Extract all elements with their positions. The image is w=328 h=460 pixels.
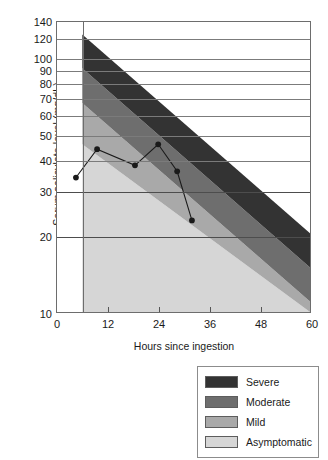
- legend-item: Mild: [205, 413, 311, 430]
- data-point-2: [132, 162, 138, 168]
- y-tick-label-120: 120: [34, 33, 52, 45]
- legend-item: Moderate: [205, 393, 311, 410]
- y-tick-label-20: 20: [40, 231, 52, 243]
- x-tick-label-60: 60: [306, 318, 318, 330]
- data-point-1: [94, 146, 100, 152]
- x-tick-mark-12: [108, 307, 109, 312]
- legend: Severe Moderate Mild Asymptomatic: [197, 366, 319, 458]
- y-tick-label-90: 90: [40, 65, 52, 77]
- gridline-y-50: [57, 136, 310, 137]
- x-tick-label-48: 48: [255, 318, 267, 330]
- y-tick-label-100: 100: [34, 53, 52, 65]
- y-tick-label-140: 140: [34, 16, 52, 28]
- data-point-0: [73, 175, 79, 181]
- series-line: [76, 144, 192, 220]
- x-tick-mark-36: [210, 307, 211, 312]
- legend-swatch-asymptomatic: [205, 436, 238, 448]
- legend-label-moderate: Moderate: [246, 396, 290, 408]
- y-tick-label-60: 60: [40, 110, 52, 122]
- gridline-y-60: [57, 116, 310, 117]
- x-tick-label-12: 12: [102, 318, 114, 330]
- gridline-y-70: [57, 99, 310, 100]
- plot-inner: [57, 22, 310, 312]
- y-tick-label-30: 30: [40, 186, 52, 198]
- gridline-y-120: [57, 39, 310, 40]
- legend-item: Asymptomatic: [205, 433, 311, 450]
- data-point-3: [155, 141, 161, 147]
- y-tick-label-10: 10: [40, 308, 52, 320]
- x-tick-mark-24: [159, 307, 160, 312]
- gridline-y-20: [57, 237, 310, 238]
- y-tick-label-70: 70: [40, 93, 52, 105]
- legend-label-mild: Mild: [246, 416, 265, 428]
- legend-swatch-moderate: [205, 396, 238, 408]
- legend-swatch-severe: [205, 376, 238, 388]
- y-tick-label-40: 40: [40, 155, 52, 167]
- y-tick-label-80: 80: [40, 78, 52, 90]
- legend-label-asymptomatic: Asymptomatic: [246, 436, 312, 448]
- x-tick-label-0: 0: [54, 318, 60, 330]
- plot-area: 14012010090807060504030201001224364860: [56, 21, 311, 313]
- chart-container: Serum salicylate level (mg/dL) 140120100…: [0, 0, 328, 360]
- y-tick-label-50: 50: [40, 130, 52, 142]
- gridline-y-30: [57, 192, 310, 193]
- gridline-y-80: [57, 84, 310, 85]
- patient-level-series: [57, 22, 310, 312]
- x-axis-title: Hours since ingestion: [56, 340, 312, 352]
- gridline-y-40: [57, 161, 310, 162]
- x-tick-label-24: 24: [153, 318, 165, 330]
- zone-start-vertical-line: [83, 22, 84, 312]
- data-point-5: [189, 218, 195, 224]
- gridline-y-100: [57, 59, 310, 60]
- legend-swatch-mild: [205, 416, 238, 428]
- gridline-y-90: [57, 71, 310, 72]
- data-point-4: [174, 168, 180, 174]
- x-tick-mark-48: [261, 307, 262, 312]
- legend-item: Severe: [205, 373, 311, 390]
- legend-label-severe: Severe: [246, 376, 279, 388]
- x-tick-label-36: 36: [204, 318, 216, 330]
